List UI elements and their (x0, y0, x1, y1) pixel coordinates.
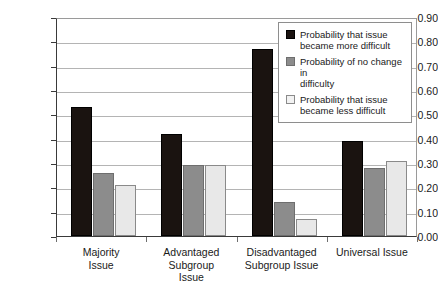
x-tick-label-line: Subgroup Issue (237, 259, 327, 272)
legend-swatch-icon (286, 30, 295, 39)
y-tick-label: 0.20 (394, 183, 438, 194)
x-tick-label: AdvantagedSubgroupIssue (146, 246, 236, 284)
y-tick-label: 0.80 (394, 37, 438, 48)
x-tick-label-line: Majority (56, 246, 146, 259)
x-tick-mark (417, 237, 418, 242)
legend-item: Probability that issuebecame less diffic… (286, 94, 405, 116)
y-tick-label: 0.30 (394, 159, 438, 170)
y-tick-mark (51, 91, 56, 92)
x-tick-mark (146, 237, 147, 242)
legend-label: Probability of no change indifficulty (300, 56, 405, 89)
bar (115, 185, 136, 236)
y-tick-label: 0.90 (394, 13, 438, 24)
y-tick-label: 0.50 (394, 110, 438, 121)
y-tick-mark (51, 140, 56, 141)
x-tick-label-line: Issue (56, 259, 146, 272)
legend-label-line: became more difficult (300, 40, 390, 51)
bar (71, 107, 92, 236)
legend-label-line: difficulty (300, 78, 405, 89)
bar (93, 173, 114, 236)
legend-label-line: Probability that issue (300, 94, 388, 105)
y-tick-label: 0.40 (394, 134, 438, 145)
y-tick-label: 0.70 (394, 61, 438, 72)
y-tick-mark (51, 164, 56, 165)
bar-group (147, 19, 237, 236)
chart-legend: Probability that issuebecame more diffic… (278, 22, 412, 123)
legend-label-line: Probability of no change in (300, 56, 405, 78)
x-tick-label: DisadvantagedSubgroup Issue (237, 246, 327, 271)
y-tick-mark (51, 67, 56, 68)
y-tick-mark (51, 213, 56, 214)
y-tick-mark (51, 18, 56, 19)
bar (296, 219, 317, 236)
legend-label-line: became less difficult (300, 105, 388, 116)
x-tick-label-line: Disadvantaged (237, 246, 327, 259)
y-tick-mark (51, 42, 56, 43)
y-tick-mark (51, 115, 56, 116)
bar-chart: Probability that issuebecame more diffic… (0, 0, 438, 290)
legend-label-line: Probability that issue (300, 29, 390, 40)
y-tick-label: 0.00 (394, 232, 438, 243)
y-axis (0, 18, 56, 237)
x-tick-mark (237, 237, 238, 242)
bar (183, 165, 204, 236)
x-tick-label-line: Issue (146, 271, 236, 284)
x-tick-label: MajorityIssue (56, 246, 146, 271)
legend-item: Probability of no change indifficulty (286, 56, 405, 89)
legend-swatch-icon (286, 57, 295, 66)
bar (364, 168, 385, 236)
bar (205, 165, 226, 236)
x-tick-label-line: Advantaged (146, 246, 236, 259)
legend-label: Probability that issuebecame more diffic… (300, 29, 390, 51)
bar (386, 161, 407, 236)
bar (342, 141, 363, 236)
y-tick-label: 0.60 (394, 86, 438, 97)
y-tick-mark (51, 188, 56, 189)
x-tick-label-line: Subgroup (146, 259, 236, 272)
x-tick-mark (56, 237, 57, 242)
bar (161, 134, 182, 236)
bar (252, 49, 273, 236)
legend-swatch-icon (286, 95, 295, 104)
y-tick-label: 0.10 (394, 207, 438, 218)
bar (274, 202, 295, 236)
bar-group (57, 19, 147, 236)
x-tick-label-line: Universal Issue (327, 246, 417, 259)
legend-item: Probability that issuebecame more diffic… (286, 29, 405, 51)
legend-label: Probability that issuebecame less diffic… (300, 94, 388, 116)
x-tick-label: Universal Issue (327, 246, 417, 259)
x-tick-mark (327, 237, 328, 242)
